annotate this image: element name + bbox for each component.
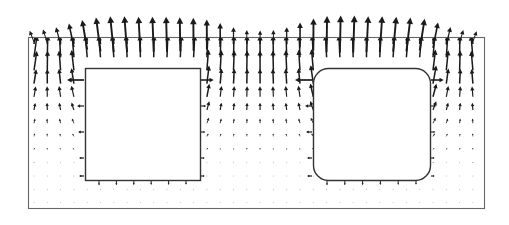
field-vector bbox=[87, 189, 88, 190]
field-vector bbox=[220, 162, 221, 163]
field-vector bbox=[459, 202, 460, 203]
field-vector bbox=[273, 189, 274, 190]
field-vector bbox=[273, 176, 274, 177]
field-vector bbox=[406, 189, 407, 190]
field-vector bbox=[113, 202, 114, 203]
field-vector bbox=[366, 189, 367, 190]
field-vector bbox=[47, 176, 48, 177]
field-vector bbox=[446, 189, 447, 190]
field-vector bbox=[446, 162, 447, 163]
field-vector bbox=[433, 202, 434, 203]
field-vector bbox=[73, 162, 74, 163]
field-vector bbox=[206, 189, 207, 190]
field-vector bbox=[260, 202, 261, 203]
field-vector bbox=[140, 202, 141, 203]
field-vector bbox=[300, 162, 301, 163]
field-vector bbox=[406, 202, 407, 203]
field-vector bbox=[206, 176, 207, 177]
field-vector bbox=[73, 189, 74, 190]
field-vector bbox=[313, 202, 314, 203]
field-vector bbox=[220, 189, 221, 190]
vector-shaft bbox=[340, 20, 341, 53]
field-vector bbox=[286, 162, 287, 163]
vector-field-canvas bbox=[0, 0, 509, 225]
field-vector bbox=[300, 202, 301, 203]
field-vector bbox=[153, 189, 154, 190]
field-vector bbox=[433, 189, 434, 190]
field-vector bbox=[472, 202, 473, 203]
field-vector bbox=[34, 202, 35, 203]
field-vector bbox=[34, 176, 35, 177]
field-vector bbox=[260, 189, 261, 190]
field-vector bbox=[246, 202, 247, 203]
field-vector bbox=[273, 202, 274, 203]
field-vector bbox=[459, 189, 460, 190]
vector-shaft bbox=[353, 20, 354, 53]
field-vector bbox=[167, 202, 168, 203]
obstacle-right-block bbox=[314, 69, 431, 181]
field-vector bbox=[60, 176, 61, 177]
vector-shaft bbox=[460, 72, 461, 84]
field-vector bbox=[87, 202, 88, 203]
field-vector bbox=[286, 202, 287, 203]
field-vector bbox=[379, 189, 380, 190]
field-vector bbox=[60, 162, 61, 163]
field-vector bbox=[286, 176, 287, 177]
field-vector bbox=[246, 162, 247, 163]
field-vector bbox=[300, 189, 301, 190]
field-vector bbox=[206, 162, 207, 163]
field-vector bbox=[113, 189, 114, 190]
field-vector bbox=[472, 176, 473, 177]
field-vector bbox=[193, 202, 194, 203]
field-vector bbox=[60, 189, 61, 190]
field-vector bbox=[233, 176, 234, 177]
field-vector bbox=[73, 202, 74, 203]
field-vector bbox=[353, 189, 354, 190]
field-vector bbox=[220, 202, 221, 203]
vector-shaft bbox=[286, 53, 287, 70]
field-vector bbox=[366, 202, 367, 203]
field-vector bbox=[419, 202, 420, 203]
field-vector bbox=[100, 202, 101, 203]
field-vector bbox=[180, 202, 181, 203]
field-vector bbox=[193, 189, 194, 190]
vector-shaft bbox=[220, 53, 221, 70]
vector-shaft bbox=[286, 72, 287, 84]
field-vector bbox=[47, 162, 48, 163]
field-vector bbox=[233, 202, 234, 203]
field-vector bbox=[286, 189, 287, 190]
field-vector bbox=[326, 189, 327, 190]
field-vector bbox=[273, 162, 274, 163]
field-vector bbox=[326, 202, 327, 203]
field-vector bbox=[393, 202, 394, 203]
field-vector bbox=[300, 176, 301, 177]
field-vector bbox=[446, 202, 447, 203]
field-vector bbox=[339, 189, 340, 190]
field-vector bbox=[353, 202, 354, 203]
field-vector bbox=[206, 202, 207, 203]
field-vector bbox=[379, 202, 380, 203]
field-vector bbox=[233, 162, 234, 163]
field-vector bbox=[419, 189, 420, 190]
field-vector bbox=[220, 176, 221, 177]
vector-shaft bbox=[234, 54, 235, 71]
field-vector bbox=[100, 189, 101, 190]
field-vector bbox=[73, 176, 74, 177]
field-vector bbox=[472, 189, 473, 190]
field-vector bbox=[47, 202, 48, 203]
field-vector bbox=[180, 189, 181, 190]
field-vector bbox=[140, 189, 141, 190]
field-vector bbox=[153, 202, 154, 203]
field-vector bbox=[34, 189, 35, 190]
field-vector bbox=[167, 189, 168, 190]
field-vector bbox=[47, 189, 48, 190]
field-vector bbox=[339, 202, 340, 203]
field-vector bbox=[459, 162, 460, 163]
vector-shaft bbox=[472, 72, 473, 84]
field-vector bbox=[313, 189, 314, 190]
vector-field-figure bbox=[0, 0, 509, 225]
field-vector bbox=[260, 162, 261, 163]
field-vector bbox=[246, 176, 247, 177]
field-vector bbox=[246, 189, 247, 190]
figure-background bbox=[0, 0, 509, 225]
